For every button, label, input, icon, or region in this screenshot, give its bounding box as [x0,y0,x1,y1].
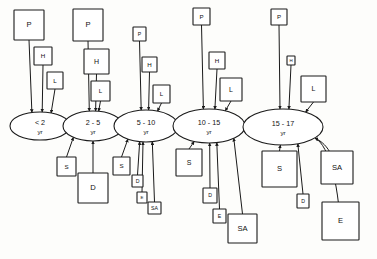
factor-connector [279,25,280,109]
stage-sublabel: yr [143,128,148,135]
factor-box-s[interactable]: S [176,149,202,176]
factor-box-label: H [41,52,45,59]
factor-box-label: D [208,192,212,198]
factor-box-d[interactable]: D [78,173,108,203]
factor-box-s[interactable]: S [113,157,130,175]
factor-connector [140,41,142,110]
factor-box-h[interactable]: H [209,52,225,69]
factor-box-e[interactable]: E [322,202,359,240]
factor-connector [234,138,243,214]
nodes-layer: < 2yr2 - 5yr5 - 10yr10 - 15yr15 - 17yrPH… [10,8,359,243]
factor-connector [42,65,43,112]
factor-box-label: D [90,183,96,192]
factor-connector [99,101,101,111]
factor-box-label: H [94,58,99,65]
factor-box-label: D [301,198,305,204]
factor-box-label: L [99,87,103,94]
factor-connector [51,89,55,113]
factor-box-s[interactable]: S [57,157,76,176]
factor-box-label: S [119,162,123,169]
factor-box-p[interactable]: P [73,9,103,41]
factor-box-e[interactable]: E [213,209,226,223]
factor-box-sa[interactable]: SA [321,151,353,184]
factor-box-label: SA [151,205,158,211]
factor-box-d[interactable]: D [297,194,309,208]
factor-connector [158,103,162,111]
factor-box-p[interactable]: P [271,9,287,25]
factor-connector [67,137,74,157]
stage-node-10-15[interactable]: 10 - 15yr [173,109,245,143]
diagram-page: < 2yr2 - 5yr5 - 10yr10 - 15yr15 - 17yrPH… [0,0,377,259]
factor-box-l[interactable]: L [47,72,63,89]
factor-box-label: L [312,85,316,92]
stage-label: 15 - 17 [272,119,294,128]
factor-box-label: L [53,77,57,84]
factor-box-label: P [138,31,142,37]
factor-box-label: L [160,90,164,97]
factor-box-label: SA [237,224,248,233]
factor-box-label: H [215,57,219,64]
stage-label: 5 - 10 [137,118,155,127]
factor-connector [138,142,140,175]
factor-box-p[interactable]: P [133,27,146,41]
factor-box-d[interactable]: D [132,175,143,187]
factor-connector [298,144,303,194]
factor-box-label: P [277,13,281,20]
stage-label: < 2 [35,118,45,127]
diagram-canvas: < 2yr2 - 5yr5 - 10yr10 - 15yr15 - 17yrPH… [0,0,377,259]
stage-node--2[interactable]: < 2yr [10,112,70,140]
factor-connector [289,65,291,109]
factor-box-label: L [229,86,233,93]
factor-box-label: P [26,20,31,29]
factor-box-label: H [289,58,292,63]
factor-box-label: H [147,61,151,68]
factor-box-label: E [218,213,222,219]
factor-box-h[interactable]: H [34,47,52,65]
factor-connector [152,142,154,202]
factor-connector [202,25,204,109]
factor-connector [225,101,231,111]
stage-label: 10 - 15 [198,118,220,127]
factor-connector [29,40,32,113]
factor-box-l[interactable]: L [220,78,242,101]
stage-sublabel: yr [37,128,42,135]
factor-box-l[interactable]: L [301,76,326,102]
factor-box-h[interactable]: H [84,49,109,74]
stage-sublabel: yr [90,128,95,135]
factor-box-label: P [85,20,90,29]
factor-box-label: SA [332,163,343,172]
stage-node-5-10[interactable]: 5 - 10yr [114,110,178,142]
factor-box-label: S [277,164,282,173]
factor-box-label: S [187,159,192,166]
factor-connector [215,69,217,109]
factor-box-l[interactable]: L [153,85,170,103]
stage-label: 2 - 5 [86,118,100,127]
factor-box-e[interactable]: E [137,192,147,203]
stage-node-15-17[interactable]: 15 - 17yr [243,109,323,145]
factor-box-s[interactable]: S [262,151,297,187]
factor-connector [149,72,150,110]
factor-box-p[interactable]: P [193,8,210,25]
factor-box-h[interactable]: H [142,57,157,72]
factor-connector [280,145,281,151]
factor-box-h[interactable]: H [287,56,295,65]
factor-box-label: E [338,216,343,225]
factor-box-sa[interactable]: SA [148,202,161,214]
factor-box-label: S [64,163,68,170]
factor-connector [306,102,314,112]
factor-box-label: E [141,195,144,200]
factor-box-sa[interactable]: SA [228,214,257,243]
factor-box-label: D [136,178,140,184]
factor-box-d[interactable]: D [203,188,217,203]
factor-connector [122,139,128,157]
stage-sublabel: yr [206,128,211,135]
stage-sublabel: yr [280,129,285,136]
factor-box-p[interactable]: P [14,10,44,40]
factor-box-l[interactable]: L [91,81,110,101]
factor-connector [189,142,194,150]
factor-box-label: P [199,13,203,20]
